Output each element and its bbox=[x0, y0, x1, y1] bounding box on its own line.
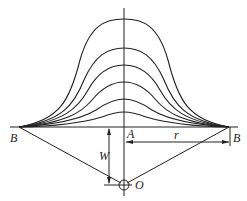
label-W: W bbox=[99, 149, 110, 163]
r-arrow-right bbox=[222, 140, 229, 144]
label-r: r bbox=[174, 128, 179, 142]
label-A: A bbox=[126, 127, 135, 141]
W-arrow-down bbox=[107, 177, 111, 184]
label-B-right: B bbox=[233, 131, 241, 145]
label-B-left: B bbox=[10, 131, 18, 145]
arrowheads bbox=[107, 128, 229, 184]
W-arrow-up bbox=[107, 128, 111, 135]
label-O: O bbox=[135, 178, 144, 192]
diagram-canvas: B B A r W O bbox=[0, 0, 247, 201]
